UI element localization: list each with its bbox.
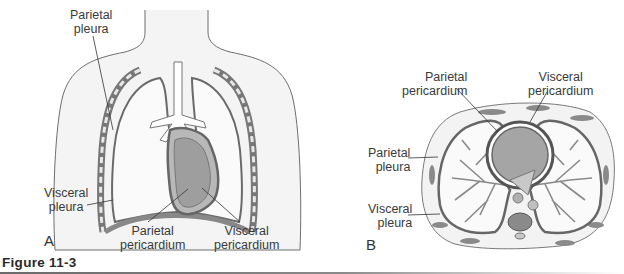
heart-b (492, 127, 548, 183)
label-b-parietal-pericardium: Parietal pericardium (402, 70, 467, 98)
label-line-2: pleura (368, 216, 412, 230)
panel-letter-b: B (366, 236, 376, 253)
label-line-1: Visceral (368, 202, 412, 216)
panel-letter-a: A (44, 232, 54, 249)
anatomy-diagram (0, 0, 624, 274)
label-line-2: pleura (368, 160, 410, 174)
descending-aorta (528, 200, 538, 210)
label-line-1: Visceral (214, 224, 279, 238)
label-line-1: Parietal (120, 224, 185, 238)
label-line-2: pleura (70, 22, 112, 36)
label-line-2: pericardium (402, 84, 467, 98)
label-a-parietal-pericardium: Parietal pericardium (120, 224, 185, 252)
label-a-parietal-pleura: Parietal pleura (70, 8, 112, 36)
label-line-1: Parietal (368, 146, 410, 160)
vertebra (508, 213, 532, 231)
label-b-parietal-pleura: Parietal pleura (368, 146, 410, 174)
label-line-2: pericardium (528, 84, 593, 98)
label-line-1: Visceral (44, 186, 88, 200)
label-b-visceral-pericardium: Visceral pericardium (528, 70, 593, 98)
label-line-1: Parietal (70, 8, 112, 22)
esophagus (513, 193, 523, 203)
label-b-visceral-pleura: Visceral pleura (368, 202, 412, 230)
label-a-visceral-pericardium: Visceral pericardium (214, 224, 279, 252)
label-line-1: Visceral (528, 70, 593, 84)
label-line-1: Parietal (402, 70, 467, 84)
panel-a-illustration (54, 10, 301, 250)
label-line-2: pleura (44, 200, 88, 214)
figure-caption: Figure 11-3 (2, 255, 77, 270)
panel-b-illustration (408, 88, 614, 249)
label-a-visceral-pleura: Visceral pleura (44, 186, 88, 214)
label-line-2: pericardium (214, 238, 279, 252)
label-line-2: pericardium (120, 238, 185, 252)
